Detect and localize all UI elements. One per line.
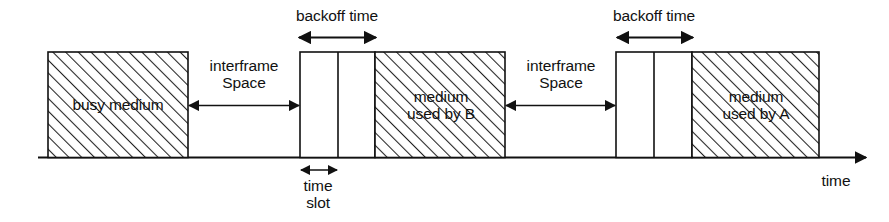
medium-used-by-b-label-line1: medium xyxy=(407,88,475,105)
interframe-space-1-label-line2: Space xyxy=(210,74,279,91)
time-slot-label-line2: slot xyxy=(304,194,333,211)
interframe-space-1-label: interframe Space xyxy=(210,57,279,92)
backoff-slot-boxes-1 xyxy=(300,52,375,158)
medium-used-by-b-label-line2: used by B xyxy=(407,105,475,122)
time-slot-label: time slot xyxy=(304,177,333,212)
medium-used-by-a-label: medium used by A xyxy=(722,88,789,123)
busy-medium-label: busy medium xyxy=(72,96,163,113)
medium-used-by-b-label: medium used by B xyxy=(407,88,475,123)
medium-used-by-a-label-line2: used by A xyxy=(722,105,789,122)
interframe-space-2-label: interframe Space xyxy=(527,57,596,92)
interframe-space-1-label-line1: interframe xyxy=(210,57,279,74)
backoff-time-1-label: backoff time xyxy=(296,7,378,24)
interframe-space-2-label-line1: interframe xyxy=(527,57,596,74)
csma-ca-timing-diagram: busy medium interframe Space backoff tim… xyxy=(0,0,889,222)
time-axis-label: time xyxy=(822,172,851,189)
backoff-time-2-label: backoff time xyxy=(613,7,695,24)
time-slot-label-line1: time xyxy=(304,177,333,194)
backoff-slot-boxes-2 xyxy=(616,52,692,158)
medium-used-by-a-label-line1: medium xyxy=(722,88,789,105)
interframe-space-2-label-line2: Space xyxy=(527,74,596,91)
